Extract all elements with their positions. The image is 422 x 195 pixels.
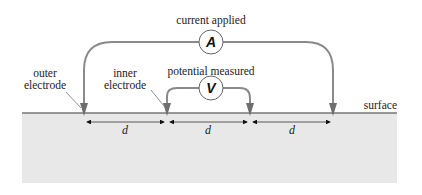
outer-electrode-label-line2: electrode bbox=[24, 79, 66, 91]
surface-label: surface bbox=[364, 99, 397, 111]
ammeter: A bbox=[199, 30, 223, 54]
potential-measured-label: potential measured bbox=[167, 65, 254, 78]
inner-electrode-label-line1: inner bbox=[113, 67, 137, 79]
spacing-label-2: d bbox=[205, 123, 212, 137]
inner-electrode-label-line2: electrode bbox=[104, 79, 146, 91]
wenner-array-diagram: A V current applied potential measured o… bbox=[0, 0, 422, 195]
ammeter-symbol: A bbox=[205, 34, 216, 50]
inner-electrode-leader bbox=[151, 90, 164, 106]
spacing-label-1: d bbox=[122, 123, 129, 137]
outer-electrode-leader bbox=[66, 92, 81, 108]
spacing-label-3: d bbox=[289, 123, 296, 137]
voltmeter: V bbox=[199, 76, 223, 100]
current-applied-label: current applied bbox=[176, 14, 246, 27]
outer-electrode-label-line1: outer bbox=[33, 67, 57, 79]
